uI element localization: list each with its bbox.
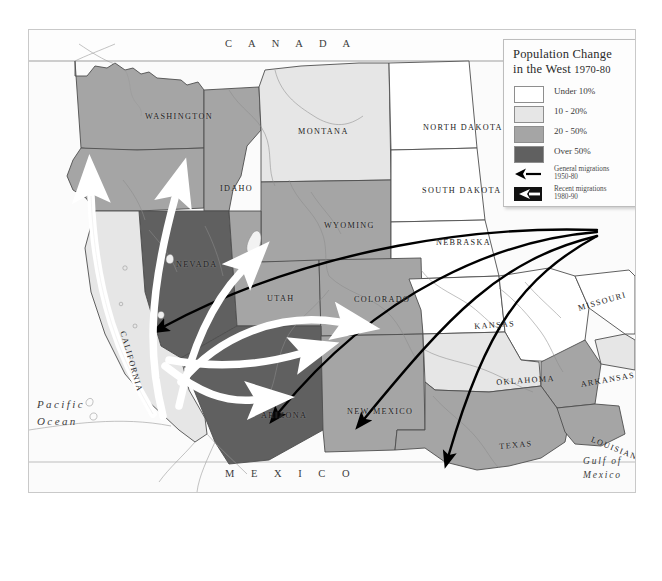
legend-general-migration: General migrations 1950-80: [514, 166, 636, 185]
legend-class-20-50: 20 - 50%: [514, 125, 636, 144]
legend-recent-line1: Recent migrations: [554, 185, 607, 193]
legend-swatch-over-50: [514, 146, 544, 163]
legend-label-10-20: 10 - 20%: [554, 106, 636, 116]
legend-label-recent-migration: Recent migrations 1980-90: [554, 185, 636, 201]
legend-label-20-50: 20 - 50%: [554, 126, 636, 136]
map-legend: Population Change in the West 1970-80 Un…: [503, 39, 636, 207]
recent-migration-arrow-icon: [514, 186, 542, 202]
legend-general-line2: 1950-80: [554, 173, 578, 181]
legend-label-general-migration: General migrations 1950-80: [554, 165, 636, 181]
general-migration-arrow-icon: [514, 166, 542, 182]
legend-title: Population Change in the West 1970-80: [513, 47, 636, 77]
legend-label-under-10: Under 10%: [554, 86, 636, 96]
legend-class-under-10: Under 10%: [514, 85, 636, 104]
legend-general-line1: General migrations: [554, 165, 609, 173]
legend-label-over-50: Over 50%: [554, 146, 636, 156]
legend-class-10-20: 10 - 20%: [514, 105, 636, 124]
legend-class-over-50: Over 50%: [514, 145, 636, 164]
legend-title-line1: Population Change: [513, 47, 612, 61]
legend-swatch-10-20: [514, 106, 544, 123]
map-screenshot: .st{stroke:#4e4e4e;stroke-width:.9;strok…: [0, 0, 662, 581]
legend-recent-line2: 1980-90: [554, 193, 578, 201]
legend-title-years: 1970-80: [574, 64, 610, 75]
legend-recent-migration: Recent migrations 1980-90: [514, 186, 636, 205]
legend-title-line2: in the West: [513, 62, 571, 76]
legend-swatch-under-10: [514, 86, 544, 103]
map-plate: .st{stroke:#4e4e4e;stroke-width:.9;strok…: [28, 29, 636, 493]
legend-swatch-20-50: [514, 126, 544, 143]
